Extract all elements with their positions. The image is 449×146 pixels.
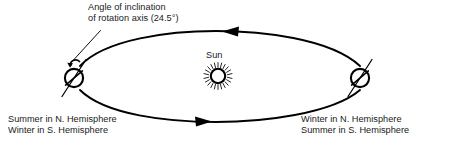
right-season-label: Winter in N. Hemisphere Summer in S. Hem… [301,114,409,137]
orbit-direction-arrow-top [222,27,239,37]
earth-icon-left [62,60,86,97]
annotation-line-2: of rotation axis (24.5°) [88,13,178,24]
sun-icon [204,63,232,90]
orbit-direction-arrow-bottom [195,117,212,127]
annotation-leader-line [74,31,101,61]
sun-label: Sun [206,50,222,61]
left-season-line-2: Winter in S. Hemisphere [8,125,117,136]
right-season-line-2: Summer in S. Hemisphere [301,125,409,136]
annotation-label: Angle of inclination of rotation axis (2… [88,2,178,25]
left-season-label: Summer in N. Hemisphere Winter in S. Hem… [8,114,117,137]
right-season-line-1: Winter in N. Hemisphere [301,114,409,125]
rotation-arrow-icon [67,60,79,68]
annotation-line-1: Angle of inclination [88,2,178,13]
orbit-path [80,31,360,122]
orbit-diagram: Angle of inclination of rotation axis (2… [0,0,449,146]
left-season-line-1: Summer in N. Hemisphere [8,114,117,125]
